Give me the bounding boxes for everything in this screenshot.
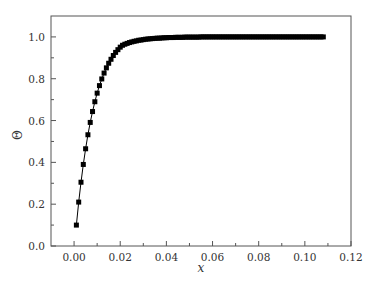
x-axis-label: x <box>198 261 205 275</box>
y-tick-label: 0.0 <box>28 240 45 252</box>
x-axis-ticks: 0.000.020.040.060.080.100.12 <box>62 241 362 263</box>
chart: 0.00.20.40.60.81.0 0.000.020.040.060.080… <box>0 0 381 283</box>
y-tick-label: 0.2 <box>28 198 45 210</box>
data-point <box>83 146 88 151</box>
data-point <box>104 65 109 70</box>
y-axis-label: Θ <box>11 130 25 140</box>
x-tick-label: 0.00 <box>62 251 85 263</box>
x-tick-label: 0.08 <box>247 251 270 263</box>
y-tick-label: 1.0 <box>28 31 45 43</box>
data-point <box>85 132 90 137</box>
y-tick-label: 0.8 <box>28 73 45 85</box>
data-point <box>102 71 107 76</box>
data-point <box>92 99 97 104</box>
data-point <box>76 200 81 205</box>
x-tick-label: 0.06 <box>201 251 225 263</box>
data-point <box>88 120 93 125</box>
y-tick-label: 0.4 <box>28 156 45 168</box>
data-point <box>90 109 95 114</box>
x-tick-label: 0.04 <box>155 251 179 263</box>
data-point <box>79 180 84 185</box>
data-point <box>97 83 102 88</box>
x-tick-label: 0.12 <box>339 251 362 263</box>
plot-frame <box>51 16 351 246</box>
x-tick-label: 0.10 <box>293 251 316 263</box>
y-axis-ticks: 0.00.20.40.60.81.0 <box>28 31 56 252</box>
data-point <box>95 91 100 96</box>
series-line <box>76 37 323 225</box>
data-point <box>99 76 104 81</box>
y-tick-label: 0.6 <box>28 115 45 127</box>
data-point <box>321 34 326 39</box>
x-tick-label: 0.02 <box>109 251 132 263</box>
series-markers <box>74 34 326 227</box>
data-point <box>74 223 79 228</box>
data-point <box>81 162 86 167</box>
